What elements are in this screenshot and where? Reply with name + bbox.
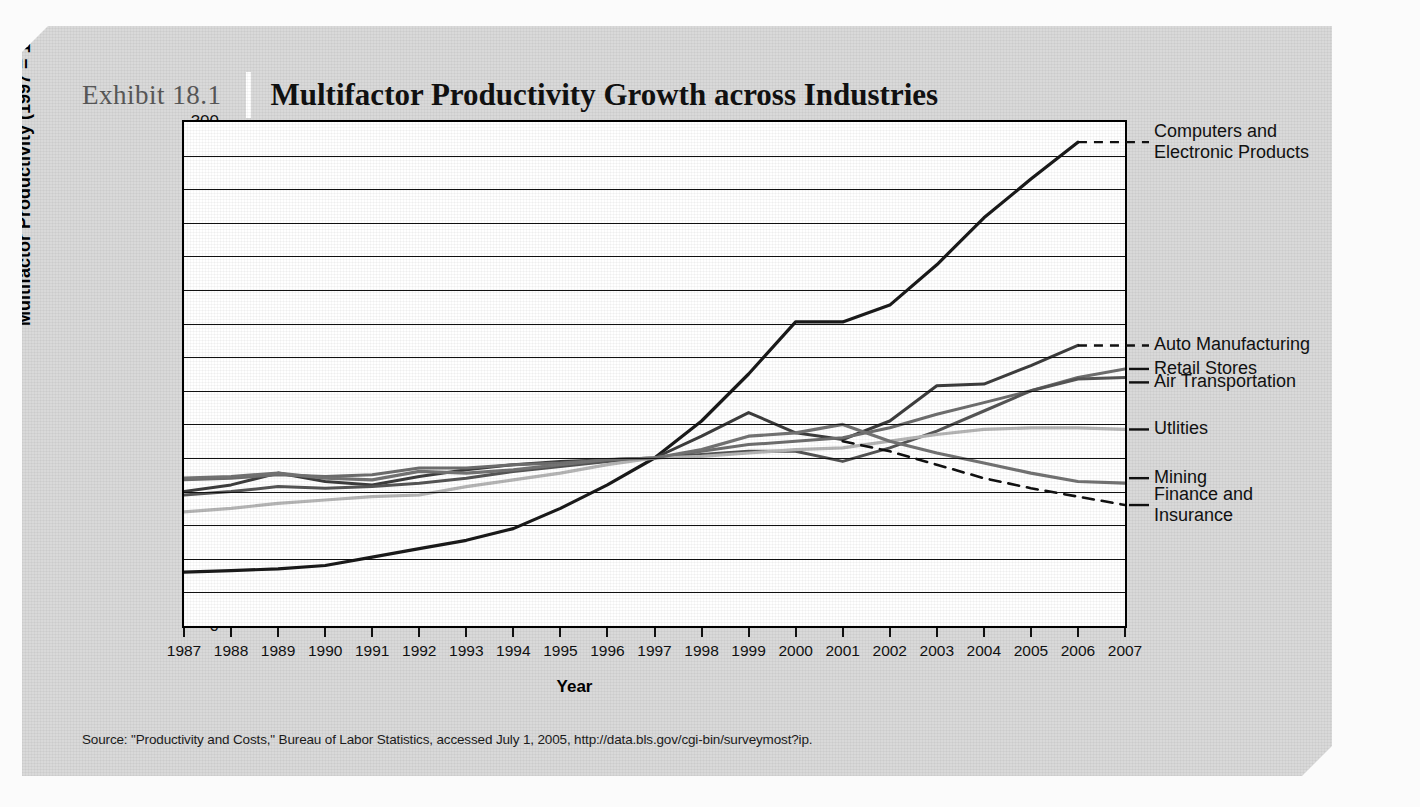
x-axis-title: Year (22, 677, 1127, 697)
x-tick-label: 1996 (590, 642, 624, 660)
x-tick-mark (230, 628, 232, 637)
gridline (184, 492, 1125, 493)
x-tick-mark (889, 628, 891, 637)
legend-label: Utlities (1154, 418, 1208, 439)
x-tick-mark (654, 628, 656, 637)
exhibit-page: Exhibit 18.1 Multifactor Productivity Gr… (0, 0, 1420, 807)
legend-label: Finance and Insurance (1154, 484, 1253, 526)
line-chart: Multifactor Productivity (1997 = 100) Ye… (22, 26, 1332, 776)
x-tick-mark (1030, 628, 1032, 637)
x-tick-label: 2007 (1108, 642, 1142, 660)
x-tick-mark (418, 628, 420, 637)
gridline (184, 290, 1125, 291)
gridline (184, 424, 1125, 425)
x-tick-label: 2004 (967, 642, 1001, 660)
x-tick-label: 2000 (778, 642, 812, 660)
gridline (184, 559, 1125, 560)
plot-area (182, 120, 1127, 628)
legend-label: Auto Manufacturing (1154, 334, 1310, 355)
x-tick-label: 1995 (543, 642, 577, 660)
x-tick-label: 1997 (637, 642, 671, 660)
series-line (184, 424, 1125, 483)
x-tick-label: 1989 (261, 642, 295, 660)
legend-label: Air Transportation (1154, 371, 1296, 392)
gridline (184, 189, 1125, 190)
gridline (184, 391, 1125, 392)
source-note: Source: "Productivity and Costs," Bureau… (82, 732, 812, 747)
x-tick-label: 1998 (684, 642, 718, 660)
series-line (843, 441, 1125, 505)
x-tick-label: 1992 (402, 642, 436, 660)
x-tick-mark (1077, 628, 1079, 637)
x-tick-mark (983, 628, 985, 637)
x-tick-mark (748, 628, 750, 637)
x-tick-mark (606, 628, 608, 637)
x-tick-mark (371, 628, 373, 637)
x-tick-label: 1988 (214, 642, 248, 660)
gridline (184, 156, 1125, 157)
x-tick-label: 2006 (1061, 642, 1095, 660)
x-tick-label: 1991 (355, 642, 389, 660)
gridline (184, 256, 1125, 257)
x-tick-mark (701, 628, 703, 637)
x-tick-mark (936, 628, 938, 637)
gridline (184, 223, 1125, 224)
legend-label: Computers and Electronic Products (1154, 121, 1309, 163)
gridline (184, 458, 1125, 459)
x-tick-mark (1124, 628, 1126, 637)
x-tick-label: 1990 (308, 642, 342, 660)
x-tick-label: 2005 (1014, 642, 1048, 660)
exhibit-panel: Exhibit 18.1 Multifactor Productivity Gr… (22, 26, 1332, 776)
x-tick-mark (465, 628, 467, 637)
x-tick-label: 1999 (731, 642, 765, 660)
gridline (184, 592, 1125, 593)
x-tick-label: 1993 (449, 642, 483, 660)
x-tick-mark (559, 628, 561, 637)
gridline (184, 525, 1125, 526)
x-tick-mark (842, 628, 844, 637)
x-tick-mark (324, 628, 326, 637)
series-lines (184, 122, 1125, 626)
x-tick-mark (795, 628, 797, 637)
x-tick-label: 2003 (920, 642, 954, 660)
gridline (184, 357, 1125, 358)
x-tick-mark (183, 628, 185, 637)
x-tick-label: 2002 (873, 642, 907, 660)
x-tick-label: 1994 (496, 642, 530, 660)
x-tick-label: 1987 (167, 642, 201, 660)
series-line (184, 428, 1125, 512)
x-tick-label: 2001 (825, 642, 859, 660)
gridline (184, 324, 1125, 325)
x-tick-mark (277, 628, 279, 637)
x-tick-mark (512, 628, 514, 637)
